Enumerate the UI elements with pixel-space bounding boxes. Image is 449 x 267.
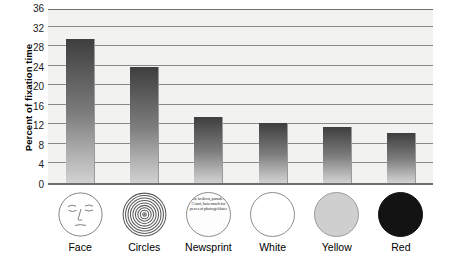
y-axis-tick-36: 36 bbox=[22, 4, 44, 14]
face-stimulus-icon bbox=[58, 192, 103, 237]
stimulus-cell-face bbox=[54, 190, 106, 238]
y-axis-tick-16: 16 bbox=[22, 102, 44, 112]
bar-white bbox=[259, 123, 288, 183]
newsprint-stimulus-icon: table in dova, parade tre Court, hois mu… bbox=[186, 192, 231, 237]
stimulus-cell-red bbox=[375, 190, 427, 238]
y-axis-tick-20: 20 bbox=[22, 82, 44, 92]
x-axis-label-red: Red bbox=[361, 240, 441, 254]
y-axis-tick-labels: 04812162024283236 bbox=[22, 9, 44, 185]
bar-red bbox=[387, 133, 416, 183]
x-axis-category-labels: FaceCirclesNewsprintWhiteYellowRed bbox=[48, 240, 433, 258]
stimulus-cell-newsprint: table in dova, parade tre Court, hois mu… bbox=[182, 190, 234, 238]
y-axis-tick-8: 8 bbox=[22, 141, 44, 151]
y-axis-tick-0: 0 bbox=[22, 180, 44, 190]
concentric-circles-stimulus-icon bbox=[122, 192, 167, 237]
bars-group bbox=[48, 10, 433, 183]
stimulus-cell-circles bbox=[118, 190, 170, 238]
white-disc-stimulus-icon bbox=[250, 192, 295, 237]
y-axis-tick-4: 4 bbox=[22, 160, 44, 170]
y-axis-tick-32: 32 bbox=[22, 24, 44, 34]
bar-yellow bbox=[323, 127, 352, 183]
stimulus-cell-white bbox=[247, 190, 299, 238]
yellow-disc-stimulus-icon bbox=[314, 192, 359, 237]
stimulus-cell-yellow bbox=[311, 190, 363, 238]
stimulus-icon-row: table in dova, parade tre Court, hois mu… bbox=[48, 190, 433, 238]
red-disc-stimulus-icon bbox=[378, 192, 423, 237]
y-axis-tick-24: 24 bbox=[22, 63, 44, 73]
bar-circles bbox=[130, 67, 159, 183]
bar-newsprint bbox=[194, 117, 223, 183]
y-axis-tick-28: 28 bbox=[22, 43, 44, 53]
y-axis-tick-12: 12 bbox=[22, 121, 44, 131]
plot-area bbox=[48, 9, 433, 185]
bar-face bbox=[66, 39, 95, 183]
fixation-time-bar-chart: Percent of fixation time 048121620242832… bbox=[0, 0, 449, 267]
